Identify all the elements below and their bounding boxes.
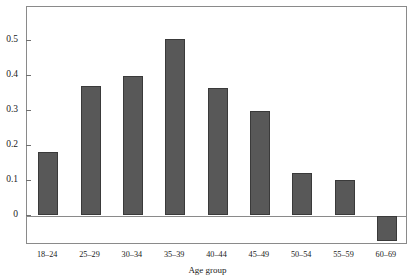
plot-area xyxy=(27,7,406,243)
y-tick-label: 0.4 xyxy=(0,70,18,80)
y-tick-label: 0.1 xyxy=(0,175,18,185)
bar xyxy=(165,39,185,215)
bar xyxy=(208,88,228,215)
bar xyxy=(81,86,101,215)
bar xyxy=(123,76,143,216)
bar-chart: 0.50.40.30.20.10 18–2425–2930–3435–3940–… xyxy=(0,0,415,280)
y-tick xyxy=(26,215,31,216)
y-tick-label: 0 xyxy=(0,210,18,220)
bar xyxy=(38,152,58,216)
zero-baseline xyxy=(27,216,406,217)
y-axis-line xyxy=(26,6,27,244)
x-axis-title: Age group xyxy=(0,265,415,275)
bar xyxy=(250,111,270,215)
x-tick-label: 60–69 xyxy=(356,250,415,259)
y-tick xyxy=(26,40,31,41)
bar xyxy=(292,173,312,216)
bar xyxy=(377,216,397,241)
y-tick xyxy=(26,145,31,146)
y-tick-label: 0.5 xyxy=(0,35,18,45)
plot-frame xyxy=(26,6,407,244)
y-tick xyxy=(26,110,31,111)
y-tick xyxy=(26,75,31,76)
y-tick-label: 0.2 xyxy=(0,140,18,150)
bar xyxy=(335,180,355,216)
y-tick xyxy=(26,180,31,181)
y-tick-label: 0.3 xyxy=(0,105,18,115)
